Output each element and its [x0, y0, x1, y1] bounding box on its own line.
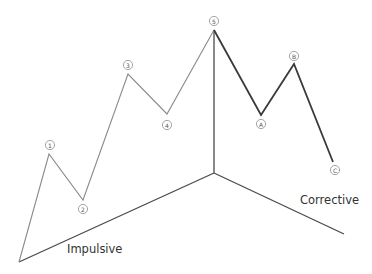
marker-label: 1 — [48, 142, 52, 149]
elliott-wave-diagram: 12345ABC Impulsive Corrective — [0, 0, 372, 274]
corrective-label: Corrective — [300, 193, 359, 207]
wave-marker-5: 5 — [209, 16, 218, 25]
wave-marker-b: B — [289, 51, 298, 60]
marker-label: 5 — [212, 18, 216, 25]
wave-markers: 12345ABC — [45, 16, 339, 213]
wave-marker-c: C — [330, 165, 339, 174]
wave-marker-a: A — [256, 119, 265, 128]
wave-marker-1: 1 — [45, 140, 54, 149]
corrective-wave-line — [214, 30, 333, 162]
marker-label: C — [333, 167, 337, 174]
marker-label: 3 — [126, 62, 130, 69]
wave-marker-2: 2 — [78, 204, 87, 213]
wave-marker-4: 4 — [162, 120, 171, 129]
marker-label: 4 — [165, 122, 169, 129]
marker-label: B — [292, 53, 296, 60]
impulsive-label: Impulsive — [67, 242, 122, 256]
wave-marker-3: 3 — [123, 60, 132, 69]
marker-label: 2 — [81, 206, 85, 213]
